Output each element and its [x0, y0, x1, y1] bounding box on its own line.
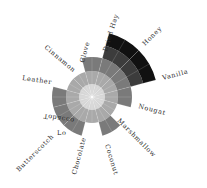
label-chocolate: Chocolate — [70, 136, 88, 175]
label-honey: Honey — [141, 25, 164, 48]
label-nougat: Nougat — [137, 102, 166, 117]
label-cinnamon: Cinnamon — [43, 43, 78, 74]
label-butterscotch: Butterscotch — [15, 133, 56, 174]
polar-area-chart: Dried Hay Honey Vanilla Nougat Marshmall… — [0, 0, 207, 188]
label-lo: Lo — [57, 129, 66, 137]
label-vanilla: Vanilla — [160, 67, 189, 82]
label-coconut: Coconut — [103, 143, 120, 176]
label-leather: Leather — [22, 74, 53, 86]
